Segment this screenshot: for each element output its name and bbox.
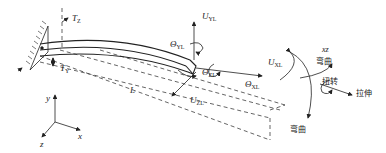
label-bending-top: 弯曲 <box>316 58 332 66</box>
label-theta-xl: ΘXL <box>245 80 260 90</box>
label-tension: 拉伸 <box>356 90 372 98</box>
fixed-wall <box>26 21 48 70</box>
label-length: L <box>130 86 135 95</box>
axis-x-label: x <box>78 132 82 141</box>
label-uyl: UYL <box>202 12 217 22</box>
axis-y-label: y <box>46 94 50 103</box>
label-torsion: 扭转 <box>322 78 338 86</box>
label-tz: TZ <box>72 14 81 24</box>
label-bending-bottom: 弯曲 <box>290 126 306 134</box>
label-uxl: UXL <box>268 58 283 68</box>
label-theta-zl: ΘZL <box>202 68 216 78</box>
axis-z-label: z <box>40 140 44 149</box>
label-xz: xz <box>322 46 329 54</box>
label-uzl: UZL <box>190 96 204 106</box>
label-ty: TY <box>60 64 69 74</box>
label-theta-yl: ΘYL <box>170 40 185 50</box>
